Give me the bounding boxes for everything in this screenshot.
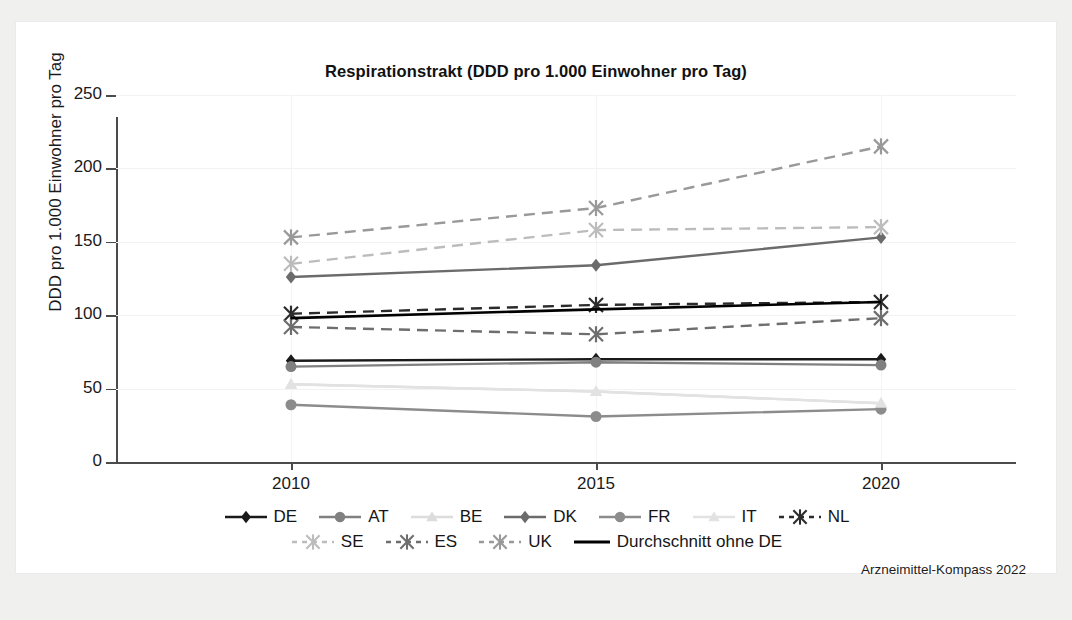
series-lines xyxy=(116,95,1016,462)
legend-item-es[interactable]: ES xyxy=(377,532,465,552)
x-tick-label: 2010 xyxy=(246,474,336,494)
legend-item-dk[interactable]: DK xyxy=(495,507,584,527)
legend-swatch-x-marker xyxy=(477,532,523,552)
legend-swatch-triangle-marker xyxy=(691,507,737,527)
y-tick-label: 100 xyxy=(42,304,102,324)
legend-item-fr[interactable]: FR xyxy=(590,507,678,527)
series-it xyxy=(285,378,887,408)
legend-item-it[interactable]: IT xyxy=(684,507,764,527)
legend-label: NL xyxy=(828,507,850,527)
x-tick-mark xyxy=(881,462,883,470)
y-axis-tick-labels: 050100150200250 xyxy=(36,22,102,573)
y-tick-mark xyxy=(106,315,116,317)
legend-label: DK xyxy=(553,507,577,527)
legend-label: ES xyxy=(435,532,458,552)
legend-item-nl[interactable]: NL xyxy=(770,507,857,527)
legend-label: FR xyxy=(648,507,671,527)
legend-label: DE xyxy=(274,507,298,527)
chart-title: Respirationstrakt (DDD pro 1.000 Einwohn… xyxy=(16,62,1056,81)
y-tick-mark xyxy=(106,242,116,244)
series-nl xyxy=(284,294,888,322)
plot-area xyxy=(116,95,1016,462)
legend-item-durchschnitt-ohne-de[interactable]: Durchschnitt ohne DE xyxy=(565,532,789,552)
legend-item-at[interactable]: AT xyxy=(310,507,395,527)
legend-swatch-circle-marker xyxy=(597,507,643,527)
legend-item-se[interactable]: SE xyxy=(283,532,371,552)
y-tick-label: 0 xyxy=(42,451,102,471)
y-tick-label: 150 xyxy=(42,231,102,251)
legend-item-de[interactable]: DE xyxy=(216,507,305,527)
legend-swatch-x-marker xyxy=(290,532,336,552)
x-tick-mark xyxy=(596,462,598,470)
x-tick-label: 2015 xyxy=(551,474,641,494)
series-be xyxy=(285,378,887,408)
chart-legend: DEATBEDKFRITNLSEESUKDurchschnitt ohne DE xyxy=(16,504,1056,554)
legend-label: SE xyxy=(341,532,364,552)
legend-label: BE xyxy=(460,507,483,527)
y-tick-mark xyxy=(106,462,116,464)
series-dk xyxy=(286,231,886,284)
legend-swatch-line xyxy=(572,532,612,552)
x-tick-label: 2020 xyxy=(836,474,926,494)
legend-item-be[interactable]: BE xyxy=(402,507,490,527)
legend-swatch-diamond-marker xyxy=(502,507,548,527)
legend-label: Durchschnitt ohne DE xyxy=(617,532,782,552)
legend-swatch-triangle-marker xyxy=(409,507,455,527)
legend-swatch-circle-marker xyxy=(317,507,363,527)
legend-row: SEESUKDurchschnitt ohne DE xyxy=(16,529,1056,554)
legend-row: DEATBEDKFRITNL xyxy=(16,504,1056,529)
legend-swatch-x-marker xyxy=(384,532,430,552)
legend-label: UK xyxy=(528,532,552,552)
series-fr xyxy=(286,399,887,422)
series-uk xyxy=(284,138,888,245)
legend-label: AT xyxy=(368,507,388,527)
y-tick-mark xyxy=(106,95,116,97)
y-tick-label: 200 xyxy=(42,157,102,177)
source-note: Arzneimittel-Kompass 2022 xyxy=(861,562,1026,577)
legend-swatch-x-marker xyxy=(777,507,823,527)
y-tick-label: 250 xyxy=(42,84,102,104)
chart-figure: Respirationstrakt (DDD pro 1.000 Einwohn… xyxy=(16,22,1056,573)
y-tick-mark xyxy=(106,168,116,170)
x-tick-mark xyxy=(291,462,293,470)
y-tick-mark xyxy=(106,389,116,391)
legend-item-uk[interactable]: UK xyxy=(470,532,559,552)
y-tick-label: 50 xyxy=(42,378,102,398)
legend-swatch-diamond-marker xyxy=(223,507,269,527)
legend-label: IT xyxy=(742,507,757,527)
